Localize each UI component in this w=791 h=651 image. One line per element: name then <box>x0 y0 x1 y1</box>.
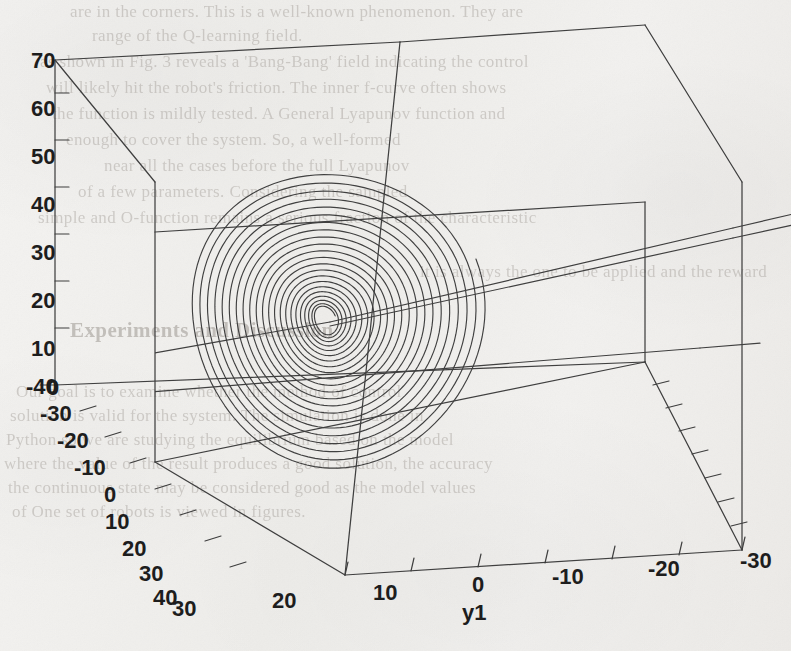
x-axis-tick-label: -40 <box>26 374 58 400</box>
trajectory-extensions <box>700 214 791 348</box>
z-axis-ticks <box>55 93 69 328</box>
lower-trajectory-4 <box>150 348 700 392</box>
y-axis-tick-label: -10 <box>552 564 584 590</box>
showthrough-line: Our goal is to examine whether the metho… <box>16 382 402 402</box>
showthrough-line: where the value of the result produces a… <box>4 454 493 474</box>
y-axis-ticks <box>345 537 745 575</box>
showthrough-line: of a few parameters. Considering the sam… <box>78 182 408 202</box>
x-axis-tick-label: 0 <box>104 482 116 508</box>
x-axis-tick-label: -10 <box>74 455 106 481</box>
showthrough-line: Experiments and Discussion <box>70 318 334 343</box>
box-back-left-pillar <box>55 60 155 462</box>
paper-texture <box>0 0 791 651</box>
paper-speckle <box>0 0 791 651</box>
x-axis-tick-label: 40 <box>153 585 177 611</box>
x-axis-tick-label: -30 <box>40 401 72 427</box>
showthrough-line: of One set of robots is viewed in figure… <box>12 502 306 522</box>
y-axis-tick-label: 0 <box>472 572 484 598</box>
z-axis-tick-label: 30 <box>31 240 55 266</box>
lower-trajectory-4-extension <box>700 343 760 348</box>
showthrough-line: are in the corners. This is a well-known… <box>70 2 523 22</box>
x-axis-tick-label: -20 <box>57 428 89 454</box>
box-floor-edges <box>55 362 645 462</box>
z-axis-tick-label: 40 <box>31 192 55 218</box>
phase-portrait-plot <box>0 0 791 651</box>
z-axis-tick-label: 50 <box>31 144 55 170</box>
outgoing-trajectory-2 <box>330 228 733 322</box>
outgoing-trajectory-3 <box>330 238 733 326</box>
y-axis-tick-label: 10 <box>373 580 397 606</box>
z-axis-tick-label: 0 <box>47 375 59 401</box>
z-axis-tick-label: 70 <box>31 48 55 74</box>
x-axis-tick-label: 10 <box>105 509 129 535</box>
showthrough-line: will likely hit the robot's friction. Th… <box>46 78 507 98</box>
box-front-bottom-right-edge <box>345 550 742 575</box>
spiral-trajectory <box>192 175 485 468</box>
showthrough-line: range of the Q-learning field. <box>92 26 303 46</box>
z-axis-tick-label: 20 <box>31 288 55 314</box>
box-front-bottom-left-edge <box>155 462 345 575</box>
box-top-edges <box>55 25 645 60</box>
y-axis-tick-label: 30 <box>172 596 196 622</box>
y-axis-tick-label: -30 <box>740 548 772 574</box>
box-interior-rear-vertex <box>155 202 645 362</box>
showthrough-line: Python so we are studying the equilibriu… <box>6 430 454 450</box>
showthrough-line: it is always the one to be applied and t… <box>420 262 767 282</box>
showthrough-line: as shown in Fig. 3 reveals a 'Bang-Bang'… <box>40 52 529 72</box>
y-axis-tick-label: -20 <box>648 556 680 582</box>
outgoing-trajectory-2-extension <box>733 214 791 228</box>
incoming-trajectory-1 <box>137 322 330 356</box>
y-axis-tick-label: 20 <box>272 588 296 614</box>
showthrough-line: the function is mildly tested. A General… <box>52 104 506 124</box>
x-axis-tick-label: 30 <box>139 561 163 587</box>
x-axis-tick-label: 20 <box>122 536 146 562</box>
y-axis-title: y1 <box>462 600 486 626</box>
showthrough-line: the continuous state may be considered g… <box>8 478 476 498</box>
rear-right-axis-ticks <box>653 381 747 526</box>
x-axis-ticks <box>80 406 246 567</box>
box-right-rear-edge <box>645 25 742 182</box>
showthrough-line: near all the cases before the full Lyapu… <box>104 156 410 176</box>
box-top-centre-edge <box>345 42 400 575</box>
scanned-figure-page: are in the corners. This is a well-known… <box>0 0 791 651</box>
box-rear-bottom-right-edge <box>645 362 742 550</box>
showthrough-line: enough to cover the system. So, a well-f… <box>66 130 401 150</box>
outgoing-trajectory-3-extension <box>733 225 791 238</box>
showthrough-line: simple and O-function remains a serious … <box>38 208 537 228</box>
z-axis-tick-label: 60 <box>31 96 55 122</box>
trajectory-group <box>137 175 733 468</box>
z-axis-tick-label: 10 <box>31 336 55 362</box>
showthrough-line: solution is valid for the system. The si… <box>10 406 424 426</box>
